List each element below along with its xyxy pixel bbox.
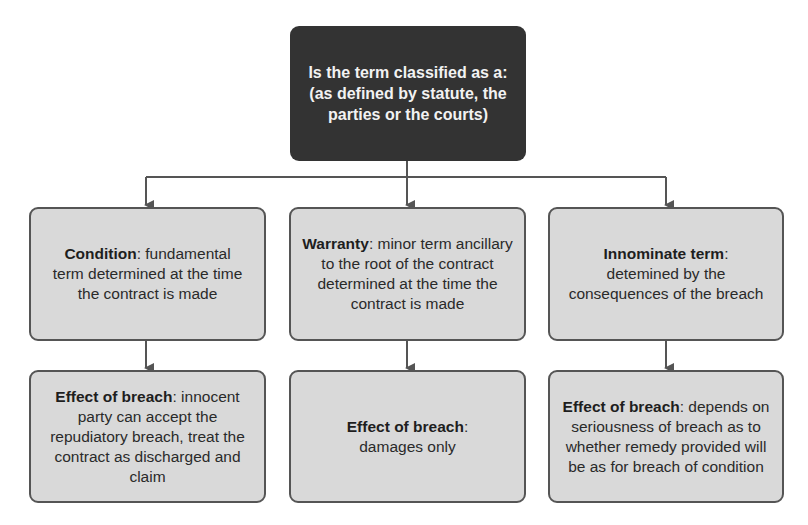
warranty-effect-box: Effect of breach: damages only [289, 370, 526, 503]
condition-effect-box: Effect of breach: innocent party can acc… [29, 370, 266, 503]
warranty-title: Warranty [302, 235, 369, 252]
warranty-effect-description: damages only [359, 438, 456, 455]
warranty-separator: : [369, 235, 378, 252]
condition-effect-separator: : [172, 388, 181, 405]
condition-box: Condition: fundamental term determined a… [29, 207, 266, 341]
warranty-box: Warranty: minor term ancillary to the ro… [289, 207, 526, 341]
innominate-term-description: detemined by the consequences of the bre… [569, 265, 764, 302]
root-question-text: Is the term classified as a: (as defined… [302, 62, 514, 125]
condition-title: Condition [64, 245, 136, 262]
condition-effect-title: Effect of breach [55, 388, 172, 405]
innominate-term-box: Innominate term: detemined by the conseq… [548, 207, 784, 341]
warranty-effect-title: Effect of breach [347, 418, 464, 435]
innominate-effect-title: Effect of breach [563, 398, 680, 415]
innominate-term-separator: : [724, 245, 728, 262]
innominate-term-title: Innominate term [604, 245, 725, 262]
warranty-effect-separator: : [464, 418, 468, 435]
root-question-box: Is the term classified as a: (as defined… [290, 26, 526, 161]
innominate-effect-box: Effect of breach: depends on seriousness… [548, 370, 784, 503]
